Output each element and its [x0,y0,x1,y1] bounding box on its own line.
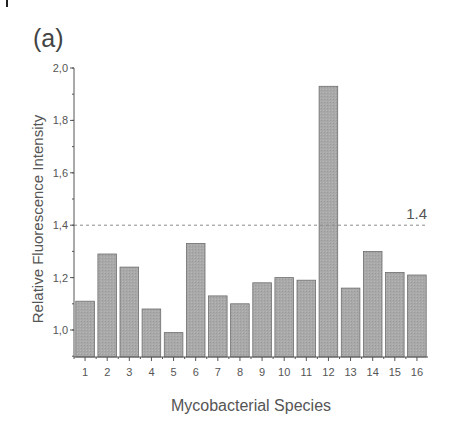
bar-13 [341,288,360,357]
bar-8 [231,304,250,357]
x-tick-label: 1 [82,366,88,378]
threshold-line: 1.4 [74,205,428,225]
x-tick-label: 8 [237,366,243,378]
x-tick-label: 4 [148,366,154,378]
bar-12 [319,86,338,357]
bar-4 [142,309,161,357]
bar-7 [209,296,228,357]
y-tick-label: 1,0 [53,324,68,336]
bar-11 [297,280,316,357]
x-tick-label: 11 [301,366,312,378]
y-tick-label: 2,0 [53,62,68,74]
y-tick-label: 1,2 [53,272,68,284]
y-tick-label: 1,4 [53,219,68,231]
x-tick-label: 3 [126,366,132,378]
x-tick-label: 10 [278,366,290,378]
bar-14 [363,251,382,357]
x-tick-label: 6 [193,366,199,378]
x-tick-label: 15 [389,366,401,378]
bar-5 [164,333,183,357]
bar-6 [186,244,205,358]
bar-10 [275,278,294,357]
bar-9 [253,283,272,357]
bar-16 [408,275,427,357]
bar-chart: 1.4 1,01,21,41,61,82,0 12345678910111213… [0,0,463,424]
x-axis-label: Mycobacterial Species [171,397,331,414]
bar-1 [76,301,95,357]
bar-15 [386,272,405,357]
bars-group [76,86,426,357]
bar-2 [98,254,117,357]
x-axis: 12345678910111213141516 [74,357,428,378]
y-axis: 1,01,21,41,61,82,0 [53,62,74,357]
x-tick-label: 2 [104,366,110,378]
bar-3 [120,267,139,357]
x-tick-label: 14 [367,366,379,378]
y-axis-label: Relative Fluorescence Intensity [29,114,46,323]
x-tick-label: 16 [411,366,423,378]
x-tick-label: 13 [344,366,356,378]
x-tick-label: 7 [215,366,221,378]
y-tick-label: 1,6 [53,167,68,179]
threshold-label: 1.4 [406,205,427,222]
y-tick-label: 1,8 [53,114,68,126]
x-tick-label: 12 [322,366,334,378]
x-tick-label: 5 [171,366,177,378]
x-tick-label: 9 [259,366,265,378]
